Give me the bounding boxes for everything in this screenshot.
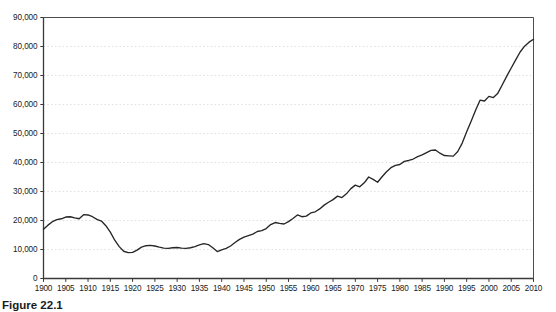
line-chart — [0, 0, 556, 312]
y-axis-tick-label: 50,000 — [0, 129, 38, 138]
x-axis-tick-label: 2010 — [514, 284, 554, 293]
figure-caption: Figure 22.1 — [2, 299, 63, 311]
y-axis-tick-label: 20,000 — [0, 216, 38, 225]
y-axis-tick-label: 60,000 — [0, 100, 38, 109]
chart-plot-area — [0, 0, 556, 312]
y-axis-tick-label: 70,000 — [0, 71, 38, 80]
y-axis-tick-label: 80,000 — [0, 42, 38, 51]
y-axis-tick-label: 30,000 — [0, 187, 38, 196]
y-axis-tick-label: 40,000 — [0, 158, 38, 167]
y-axis-tick-label: 10,000 — [0, 245, 38, 254]
figure-container: Figure 22.1 90,00080,00070,00060,00050,0… — [0, 0, 556, 312]
y-axis-tick-label: 90,000 — [0, 13, 38, 22]
y-axis-tick-label: 0 — [0, 274, 38, 283]
